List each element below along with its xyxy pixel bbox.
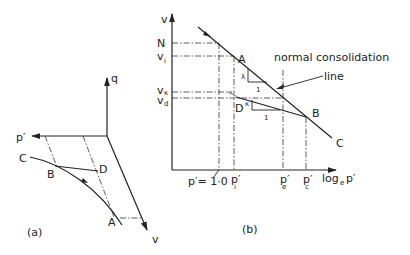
label-lambda: λ (241, 73, 245, 81)
label-vi-sub: i (164, 57, 166, 65)
caption-b: (b) (242, 223, 258, 236)
ncl-curve (30, 157, 122, 225)
point-c: C (19, 152, 27, 165)
label-log-p: p′ (346, 172, 356, 185)
label-pi: p′ (231, 173, 241, 186)
projection-line-d (83, 136, 114, 217)
annotation-pointer (280, 76, 323, 88)
label-vk-sub: κ (164, 89, 168, 97)
point-a: A (108, 216, 116, 229)
ncl-annotation-line1: normal consolidation (274, 51, 389, 64)
label-p1: p′= 1·0 (188, 175, 228, 188)
caption-a: (a) (27, 226, 42, 239)
point-b: B (47, 168, 55, 181)
label-log: log (322, 172, 339, 185)
label-pc-sub: c (305, 183, 309, 191)
figure-a: q p′ v C B D A (a) (16, 72, 159, 246)
label-kappa: κ (245, 100, 249, 108)
label-pi-sub: i (234, 183, 236, 191)
figure-b: v N v i v κ v d p′= 1·0 p′ i p′ e p′ c l… (157, 13, 389, 236)
label-n: N (157, 37, 165, 50)
label-vd: v (157, 94, 164, 107)
label-one-url: 1 (264, 114, 268, 122)
label-vi: v (157, 50, 164, 63)
label-v-axis: v (152, 233, 159, 246)
label-log-sub: e (340, 179, 344, 187)
point-d-b: D (235, 102, 243, 115)
point-c-b: C (336, 137, 344, 150)
ncl-annotation-line2: line (324, 70, 344, 83)
critical-state-diagram: q p′ v C B D A (a) v (0, 0, 410, 255)
point-b-b: B (312, 107, 320, 120)
label-q-axis: q (111, 72, 118, 85)
point-d: D (99, 163, 107, 176)
point-a-b: A (238, 53, 246, 66)
label-pe-sub: e (282, 183, 286, 191)
label-v-b: v (161, 13, 168, 26)
label-p-axis: p′ (16, 131, 26, 144)
label-one-ncl: 1 (256, 86, 260, 94)
label-vd-sub: d (164, 100, 168, 108)
